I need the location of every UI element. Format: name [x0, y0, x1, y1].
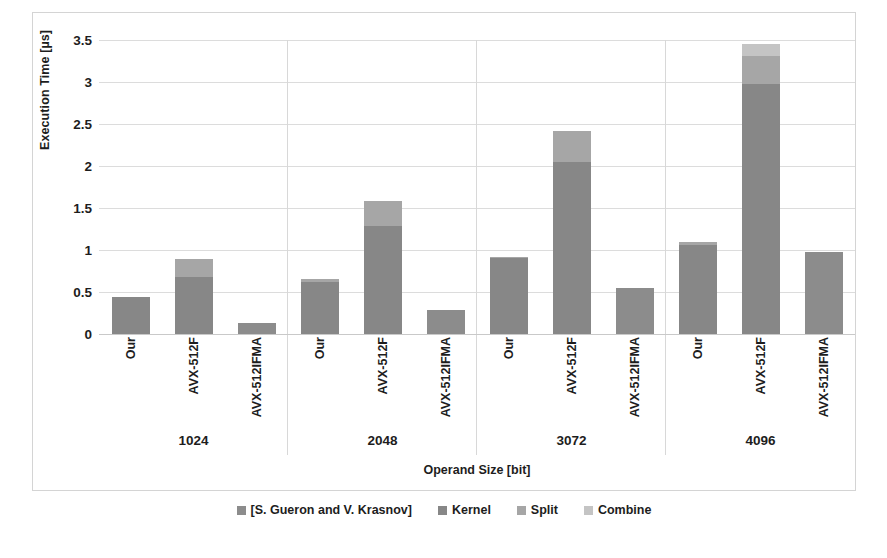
bar-segment[interactable]: [112, 297, 150, 334]
legend-item[interactable]: Kernel: [438, 503, 491, 517]
bar[interactable]: [112, 297, 150, 334]
bar[interactable]: [301, 279, 339, 334]
x-axis-series-label: Our: [502, 337, 516, 359]
bar[interactable]: [175, 259, 213, 334]
legend-label: Split: [531, 503, 558, 517]
x-axis-series-label: AVX-512F: [754, 337, 768, 394]
bar-segment[interactable]: [742, 44, 780, 56]
x-label-group: OurAVX-512FAVX-512IFMA: [99, 335, 288, 433]
x-label-slot: AVX-512IFMA: [616, 335, 654, 433]
x-axis-series-label: AVX-512IFMA: [439, 337, 453, 417]
bar-segment[interactable]: [616, 288, 654, 334]
legend-item[interactable]: Combine: [584, 503, 651, 517]
bar-groups: [99, 40, 855, 334]
x-axis-series-label: AVX-512F: [376, 337, 390, 394]
bar-group: [288, 40, 477, 334]
bar[interactable]: [679, 242, 717, 334]
legend-swatch-icon: [438, 506, 447, 515]
x-label-slot: Our: [490, 335, 528, 433]
bar[interactable]: [805, 252, 843, 334]
bar-segment[interactable]: [742, 56, 780, 84]
bar-segment[interactable]: [301, 282, 339, 334]
bar-segment[interactable]: [553, 162, 591, 334]
x-label-slot: AVX-512IFMA: [238, 335, 276, 433]
legend-swatch-icon: [237, 506, 246, 515]
bar-group: [666, 40, 855, 334]
legend-label: Combine: [598, 503, 651, 517]
bar[interactable]: [364, 201, 402, 334]
x-axis-series-label: AVX-512IFMA: [628, 337, 642, 417]
x-label-slot: Our: [112, 335, 150, 433]
bar[interactable]: [238, 323, 276, 334]
bar-segment[interactable]: [175, 259, 213, 277]
x-axis-group-label-text: 1024: [178, 433, 208, 448]
x-label-group: OurAVX-512FAVX-512IFMA: [666, 335, 855, 433]
x-axis-series-label: AVX-512F: [187, 337, 201, 394]
y-axis-tick: 3.5: [56, 33, 92, 48]
bar-segment[interactable]: [553, 131, 591, 162]
bar-segment[interactable]: [805, 252, 843, 334]
x-axis-series-label: AVX-512IFMA: [817, 337, 831, 417]
y-axis-tick: 0: [56, 327, 92, 342]
x-label-slot: AVX-512IFMA: [427, 335, 465, 433]
x-label-slot: AVX-512F: [553, 335, 591, 433]
x-axis-series-label: Our: [124, 337, 138, 359]
legend-item[interactable]: [S. Gueron and V. Krasnov]: [237, 503, 412, 517]
bar-segment[interactable]: [238, 323, 276, 334]
y-axis-title: Execution Time [µs]: [38, 0, 56, 150]
legend-swatch-icon: [517, 506, 526, 515]
x-label-slot: AVX-512F: [175, 335, 213, 433]
x-axis-group-label-text: 2048: [367, 433, 397, 448]
x-label-slot: AVX-512F: [364, 335, 402, 433]
x-axis-series-label: Our: [313, 337, 327, 359]
x-axis-group-labels: 1024204830724096: [99, 433, 855, 459]
y-axis-tick: 1: [56, 243, 92, 258]
bar-segment[interactable]: [679, 245, 717, 334]
bar[interactable]: [616, 288, 654, 334]
x-axis-group-label-text: 4096: [745, 433, 775, 448]
bar-segment[interactable]: [490, 258, 528, 334]
legend-item[interactable]: Split: [517, 503, 558, 517]
legend-label: Kernel: [452, 503, 491, 517]
x-label-slot: AVX-512IFMA: [805, 335, 843, 433]
x-axis-group-label: 3072: [477, 433, 666, 459]
bar[interactable]: [490, 257, 528, 334]
y-axis-tick: 1.5: [56, 201, 92, 216]
plot-area: [99, 40, 855, 334]
x-axis-series-label: AVX-512IFMA: [250, 337, 264, 417]
bar-segment[interactable]: [742, 84, 780, 334]
bar-group: [477, 40, 666, 334]
x-label-group: OurAVX-512FAVX-512IFMA: [477, 335, 666, 433]
y-axis-tick: 2.5: [56, 117, 92, 132]
x-axis-group-label: 1024: [99, 433, 288, 459]
chart-legend: [S. Gueron and V. Krasnov]KernelSplitCom…: [32, 503, 856, 517]
x-axis-group-label: 2048: [288, 433, 477, 459]
x-axis-title: Operand Size [bit]: [99, 463, 855, 477]
y-axis-tick: 2: [56, 159, 92, 174]
x-label-group: OurAVX-512FAVX-512IFMA: [288, 335, 477, 433]
x-axis-group-label: 4096: [666, 433, 855, 459]
x-label-slot: Our: [679, 335, 717, 433]
y-axis-tick: 3: [56, 75, 92, 90]
bar[interactable]: [742, 44, 780, 334]
legend-label: [S. Gueron and V. Krasnov]: [251, 503, 412, 517]
x-axis-series-label: Our: [691, 337, 705, 359]
legend-swatch-icon: [584, 506, 593, 515]
bar-group: [99, 40, 288, 334]
bar-segment[interactable]: [364, 226, 402, 334]
x-label-slot: AVX-512F: [742, 335, 780, 433]
bar[interactable]: [427, 310, 465, 334]
y-axis-tick: 0.5: [56, 285, 92, 300]
x-label-slot: Our: [301, 335, 339, 433]
y-axis-tick-labels: 00.511.522.533.5: [56, 40, 92, 334]
bar[interactable]: [553, 131, 591, 334]
bar-segment[interactable]: [364, 201, 402, 226]
x-axis-series-label: AVX-512F: [565, 337, 579, 394]
bar-segment[interactable]: [175, 277, 213, 334]
bar-chart-figure: Execution Time [µs] 00.511.522.533.5 Our…: [0, 0, 887, 558]
x-axis-group-label-text: 3072: [556, 433, 586, 448]
x-axis-series-labels: OurAVX-512FAVX-512IFMAOurAVX-512FAVX-512…: [99, 335, 855, 433]
bar-segment[interactable]: [427, 310, 465, 334]
